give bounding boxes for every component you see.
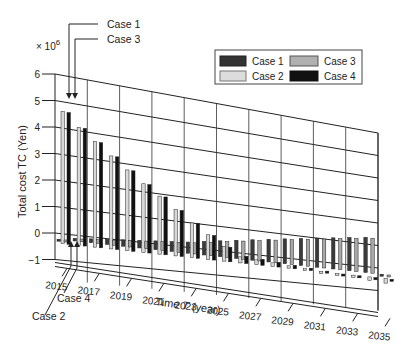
bar xyxy=(202,241,205,255)
svg-text:Case 3: Case 3 xyxy=(324,56,356,67)
legend-item-case1: Case 1 xyxy=(220,56,284,67)
bar xyxy=(371,238,374,273)
bar xyxy=(283,239,286,264)
bar xyxy=(387,275,390,277)
bar xyxy=(322,239,325,268)
legend-item-case4: Case 4 xyxy=(290,71,356,82)
svg-text:Case 2: Case 2 xyxy=(32,310,65,322)
legend-item-case2: Case 2 xyxy=(220,71,284,82)
bars xyxy=(57,112,393,284)
bar xyxy=(148,185,151,253)
bar xyxy=(67,113,70,245)
bar xyxy=(336,273,339,275)
y-tick-label: 6 xyxy=(34,69,40,80)
bar xyxy=(261,259,264,265)
y-tick-label: −1 xyxy=(29,255,41,266)
bar xyxy=(83,128,86,246)
bar xyxy=(258,241,261,261)
bar xyxy=(364,237,367,272)
bar xyxy=(138,240,141,248)
bar xyxy=(89,239,92,243)
bar xyxy=(196,224,199,259)
bar xyxy=(109,156,112,249)
bar xyxy=(315,238,318,267)
bar xyxy=(352,275,355,277)
bar xyxy=(186,242,189,253)
bar xyxy=(154,241,157,250)
y-tick-label: 4 xyxy=(34,122,40,133)
bar xyxy=(122,240,125,246)
x-tick-label: 2033 xyxy=(335,324,359,337)
bar xyxy=(342,274,345,276)
bar xyxy=(115,157,118,250)
x-tick-label: 2035 xyxy=(368,329,392,342)
bar xyxy=(358,276,361,278)
bar xyxy=(105,239,108,244)
bar xyxy=(319,272,322,274)
bar xyxy=(390,279,393,281)
bar xyxy=(277,262,280,267)
chart-container: −10123456 201520172019202120232025202720… xyxy=(0,0,395,352)
callout-case1: Case 1 xyxy=(66,18,140,99)
bar xyxy=(348,238,351,271)
svg-text:Case 4: Case 4 xyxy=(324,71,356,82)
y-multiplier: × 106 xyxy=(36,38,61,52)
bar xyxy=(374,278,377,280)
x-tick-label: 2029 xyxy=(271,314,295,327)
x-tick-label: 2027 xyxy=(239,309,263,322)
svg-text:Case 4: Case 4 xyxy=(57,292,90,304)
bar xyxy=(303,269,306,271)
bar xyxy=(251,240,254,260)
grid xyxy=(55,74,378,311)
bar xyxy=(245,256,248,263)
legend: Case 1 Case 3 Case 2 Case 4 xyxy=(215,50,362,84)
bar xyxy=(132,171,135,251)
bar xyxy=(384,279,387,283)
y-tick-label: 3 xyxy=(34,149,40,160)
bar xyxy=(212,235,215,260)
svg-text:Case 1: Case 1 xyxy=(252,56,284,67)
bar xyxy=(164,197,167,255)
bar xyxy=(235,240,238,258)
bar xyxy=(170,241,173,251)
bar xyxy=(380,274,383,276)
bar xyxy=(368,277,371,280)
bar xyxy=(219,241,222,257)
bar-chart-3d: −10123456 201520172019202120232025202720… xyxy=(0,0,395,352)
bar xyxy=(99,143,102,248)
bar xyxy=(61,112,64,244)
bar xyxy=(229,247,232,262)
svg-text:Case 2: Case 2 xyxy=(252,71,284,82)
bar xyxy=(309,268,312,270)
bar xyxy=(299,238,302,265)
bar xyxy=(93,142,96,247)
bar xyxy=(339,239,342,270)
svg-text:Case 1: Case 1 xyxy=(107,18,140,30)
y-tick-label: 5 xyxy=(34,96,40,107)
y-axis: −10123456 xyxy=(29,69,55,266)
bar xyxy=(293,265,296,269)
y-tick-label: 1 xyxy=(34,202,40,213)
bar xyxy=(126,170,129,251)
bar xyxy=(271,263,274,267)
bar xyxy=(274,240,277,263)
bar xyxy=(267,239,270,262)
y-axis-label: Total cost TC (Yen) xyxy=(16,125,28,218)
bar xyxy=(73,238,76,241)
x-tick-label: 2031 xyxy=(303,319,327,332)
bar xyxy=(77,127,80,245)
bar xyxy=(306,239,309,266)
svg-text:Case 3: Case 3 xyxy=(107,33,140,45)
callout-case4: Case 4 xyxy=(57,241,90,304)
callout-case3: Case 3 xyxy=(72,33,140,99)
legend-item-case3: Case 3 xyxy=(290,56,356,67)
x-axis: 2015201720192021202320252027202920312033… xyxy=(45,263,392,343)
bar xyxy=(57,239,60,241)
bar xyxy=(287,266,290,268)
bar xyxy=(180,210,183,256)
bar xyxy=(290,240,293,265)
bar xyxy=(332,238,335,269)
bar xyxy=(355,238,358,271)
y-tick-label: 0 xyxy=(34,228,40,239)
x-tick-label: 2019 xyxy=(109,289,133,302)
